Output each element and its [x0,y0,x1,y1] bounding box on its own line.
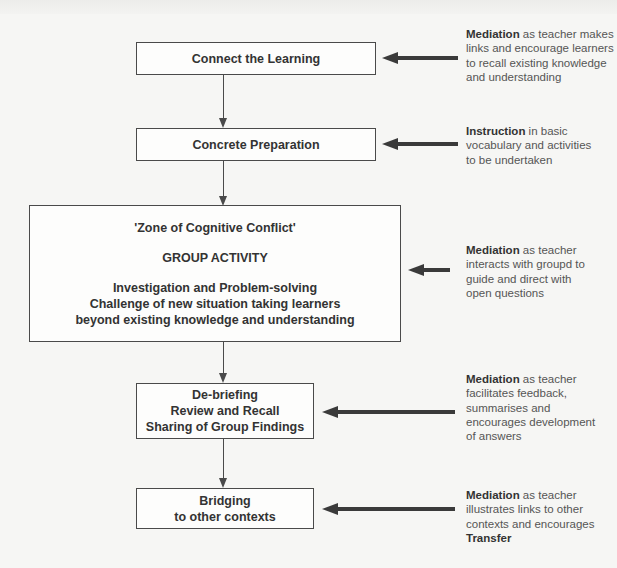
step-label: De-briefing [192,387,258,403]
annotation-keyword: Instruction [466,125,525,137]
flow-connector [223,342,224,374]
step-bridging: Bridging to other contexts [136,488,314,529]
arrow-down-icon [219,478,227,488]
arrow-left-icon [408,264,450,276]
arrow-down-icon [219,118,227,128]
page-top-strip [0,0,617,14]
flow-connector [223,75,224,119]
step-label: Connect the Learning [192,51,320,67]
step-label: to other contexts [174,509,275,525]
annotation-keyword: Mediation [466,489,520,501]
annotation-zone: Mediation as teacher interacts with grou… [466,243,594,300]
step-debriefing: De-briefing Review and Recall Sharing of… [136,383,314,439]
flow-connector [223,161,224,197]
arrow-down-icon [219,373,227,383]
step-label: Bridging [199,493,250,509]
zone-heading: 'Zone of Cognitive Conflict' [134,220,296,236]
arrow-down-icon [219,196,227,206]
annotation-debrief: Mediation as teacher facilitates feedbac… [466,372,601,443]
annotation-bridging: Mediation as teacher illustrates links t… [466,488,596,545]
zone-subheading: GROUP ACTIVITY [162,250,268,266]
annotation-keyword: Mediation [466,373,520,385]
annotation-connect: Mediation as teacher makes links and enc… [466,27,614,84]
zone-line: beyond existing knowledge and understand… [75,312,354,328]
annotation-keyword-transfer: Transfer [466,532,511,544]
arrow-left-icon [382,138,458,150]
arrow-left-icon [322,406,455,418]
arrow-left-icon [322,503,455,515]
arrow-left-icon [382,52,458,64]
step-label: Review and Recall [170,403,279,419]
step-connect-the-learning: Connect the Learning [136,42,376,75]
annotation-concrete: Instruction in basic vocabulary and acti… [466,124,596,167]
step-concrete-preparation: Concrete Preparation [136,128,376,161]
zone-line: Investigation and Problem-solving [113,280,317,296]
annotation-keyword: Mediation [466,244,520,256]
step-label: Concrete Preparation [192,137,319,153]
annotation-keyword: Mediation [466,28,520,40]
step-label: Sharing of Group Findings [146,419,304,435]
flow-connector [223,439,224,479]
zone-line: Challenge of new situation taking learne… [90,296,341,312]
step-zone-of-cognitive-conflict: 'Zone of Cognitive Conflict' GROUP ACTIV… [29,205,401,342]
